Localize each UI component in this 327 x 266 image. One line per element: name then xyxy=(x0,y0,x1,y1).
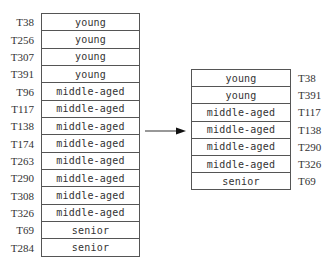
table-row: T256young xyxy=(42,31,139,48)
table-row: middle-agedT290 xyxy=(192,139,290,156)
table-row: youngT38 xyxy=(192,70,290,87)
sampled-table: youngT38 youngT391 middle-agedT117 middl… xyxy=(191,69,291,190)
row-value: young xyxy=(75,34,106,45)
row-id: T117 xyxy=(0,103,34,115)
table-row: youngT391 xyxy=(192,87,290,104)
table-row: T174middle-aged xyxy=(42,135,139,152)
row-value: middle-aged xyxy=(56,86,124,97)
row-value: young xyxy=(75,17,106,28)
table-row: T263middle-aged xyxy=(42,153,139,170)
row-value: young xyxy=(225,90,256,101)
row-id: T138 xyxy=(298,124,327,136)
row-value: young xyxy=(225,73,256,84)
row-value: middle-aged xyxy=(56,155,124,166)
row-id: T256 xyxy=(0,34,34,46)
table-row: T391young xyxy=(42,66,139,83)
row-id: T391 xyxy=(0,68,34,80)
row-id: T69 xyxy=(298,175,327,187)
table-row: T69senior xyxy=(42,222,139,239)
table-row: seniorT69 xyxy=(192,173,290,190)
table-row: middle-agedT326 xyxy=(192,156,290,173)
table-row: middle-agedT117 xyxy=(192,104,290,121)
row-id: T38 xyxy=(298,72,327,84)
row-id: T174 xyxy=(0,138,34,150)
source-table: T38young T256young T307young T391young T… xyxy=(41,13,140,257)
table-row: T117middle-aged xyxy=(42,101,139,118)
table-row: T284senior xyxy=(42,239,139,256)
row-value: middle-aged xyxy=(56,121,124,132)
row-value: senior xyxy=(222,176,259,187)
row-id: T290 xyxy=(298,141,327,153)
row-id: T307 xyxy=(0,51,34,63)
row-value: middle-aged xyxy=(207,107,275,118)
row-id: T138 xyxy=(0,120,34,132)
row-value: senior xyxy=(72,242,109,253)
row-value: middle-aged xyxy=(56,190,124,201)
row-value: young xyxy=(75,51,106,62)
table-row: T307young xyxy=(42,49,139,66)
row-id: T391 xyxy=(298,89,327,101)
row-id: T38 xyxy=(0,16,34,28)
row-value: middle-aged xyxy=(56,103,124,114)
table-row: middle-agedT138 xyxy=(192,122,290,139)
row-value: senior xyxy=(72,225,109,236)
row-value: young xyxy=(75,69,106,80)
table-row: T138middle-aged xyxy=(42,118,139,135)
row-id: T308 xyxy=(0,190,34,202)
arrow-right-icon xyxy=(145,126,187,136)
table-row: T326middle-aged xyxy=(42,205,139,222)
row-id: T326 xyxy=(0,207,34,219)
row-id: T263 xyxy=(0,155,34,167)
table-row: T290middle-aged xyxy=(42,170,139,187)
row-id: T284 xyxy=(0,242,34,254)
row-id: T117 xyxy=(298,106,327,118)
row-id: T69 xyxy=(0,224,34,236)
row-value: middle-aged xyxy=(207,124,275,135)
row-id: T290 xyxy=(0,172,34,184)
row-id: T96 xyxy=(0,86,34,98)
row-value: middle-aged xyxy=(56,207,124,218)
row-value: middle-aged xyxy=(207,141,275,152)
row-value: middle-aged xyxy=(207,159,275,170)
table-row: T96middle-aged xyxy=(42,83,139,100)
row-value: middle-aged xyxy=(56,173,124,184)
row-value: middle-aged xyxy=(56,138,124,149)
table-row: T38young xyxy=(42,14,139,31)
table-row: T308middle-aged xyxy=(42,187,139,204)
row-id: T326 xyxy=(298,158,327,170)
